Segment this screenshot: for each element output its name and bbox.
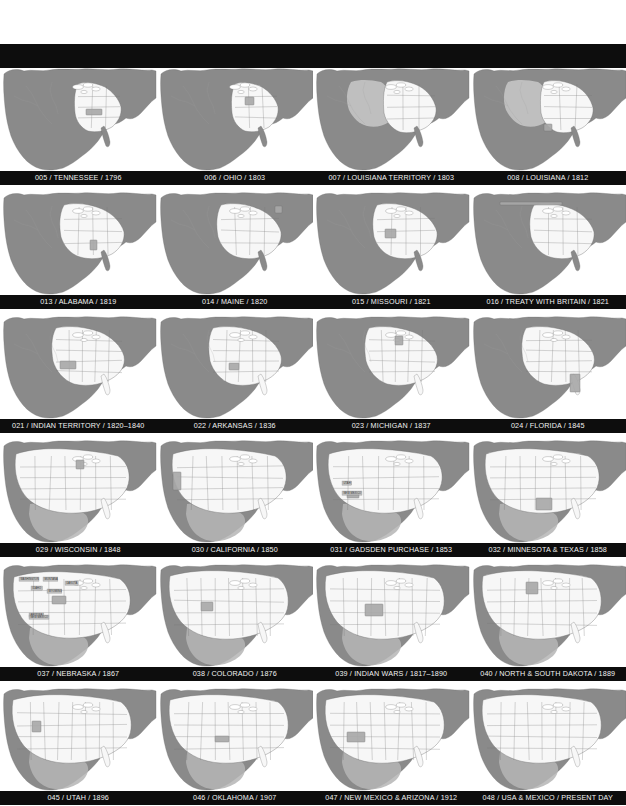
map-caption-030: 030 / CALIFORNIA / 1850 [157,543,314,557]
highlight-region [544,124,552,131]
map-tile-005[interactable] [0,68,157,171]
map-tile-strip [0,68,626,171]
map-caption-031: 031 / GADSDEN PURCHASE / 1853 [313,543,470,557]
map-svg [157,68,314,171]
map-tile-029[interactable] [0,440,157,543]
highlight-region [90,240,97,250]
map-caption-023: 023 / MICHIGAN / 1837 [313,419,470,433]
highlight-region [536,498,552,510]
caption-bar-row-1: 005 / TENNESSEE / 1796006 / OHIO / 18030… [0,171,626,185]
highlight-region [245,97,254,105]
map-caption-032: 032 / MINNESOTA & TEXAS / 1858 [470,543,626,557]
map-tile-014[interactable] [157,192,314,295]
highlight-region [52,596,66,604]
map-tile-037[interactable]: WASHINGTONMONTANADAKOTAIDAHOWYOMINGARIZO… [0,564,157,667]
map-svg [313,564,470,667]
highlight-region [215,736,229,742]
map-tile-015[interactable] [313,192,470,295]
map-caption-048: 048 / USA & MEXICO / PRESENT DAY [470,791,626,805]
map-tile-030[interactable] [157,440,314,543]
map-tile-016[interactable] [470,192,626,295]
map-tile-032[interactable] [470,440,626,543]
map-caption-016: 016 / TREATY WITH BRITAIN / 1821 [470,295,626,309]
map-tile-047[interactable] [313,688,470,791]
map-svg [470,564,626,667]
territory-label: WASHINGTON [20,577,39,581]
map-tile-023[interactable] [313,316,470,419]
map-tile-021[interactable] [0,316,157,419]
map-tile-strip: UTAHNEW MEXICO [0,440,626,543]
highlight-region [570,374,580,392]
map-svg: WASHINGTONMONTANADAKOTAIDAHOWYOMINGARIZO… [0,564,157,667]
map-svg [470,688,626,791]
map-caption-015: 015 / MISSOURI / 1821 [313,295,470,309]
map-svg [0,192,157,295]
map-tile-strip [0,316,626,419]
map-tile-strip [0,688,626,791]
map-tile-024[interactable] [470,316,626,419]
territory-label: UTAH [343,481,350,485]
map-caption-046: 046 / OKLAHOMA / 1907 [157,791,314,805]
highlight-region [500,202,562,205]
map-row-5: WASHINGTONMONTANADAKOTAIDAHOWYOMINGARIZO… [0,564,626,688]
territory-label: DAKOTA [66,581,77,585]
map-caption-008: 008 / LOUISIANA / 1812 [470,171,626,185]
map-svg [157,316,314,419]
highlight-region [76,460,84,469]
map-svg [313,316,470,419]
caption-bar-row-6: 045 / UTAH / 1896046 / OKLAHOMA / 190704… [0,791,626,805]
map-tile-048[interactable] [470,688,626,791]
map-caption-022: 022 / ARKANSAS / 1836 [157,419,314,433]
map-svg [0,316,157,419]
map-tile-045[interactable] [0,688,157,791]
map-tile-006[interactable] [157,68,314,171]
territory-label: NEW MEXICO [343,491,361,495]
highlight-region [229,363,239,370]
map-svg [0,688,157,791]
map-svg [470,192,626,295]
map-svg [0,68,157,171]
map-caption-040: 040 / NORTH & SOUTH DAKOTA / 1889 [470,667,626,681]
map-svg [157,440,314,543]
row-spacer [0,185,626,192]
map-row-6: 045 / UTAH / 1896046 / OKLAHOMA / 190704… [0,688,626,806]
map-tile-038[interactable] [157,564,314,667]
map-tile-039[interactable] [313,564,470,667]
highlight-region [32,721,41,732]
map-tile-040[interactable] [470,564,626,667]
map-row-4: UTAHNEW MEXICO 029 / WISCONSIN / 1848030… [0,440,626,564]
map-svg [470,316,626,419]
row-spacer [0,681,626,688]
map-tile-031[interactable]: UTAHNEW MEXICO [313,440,470,543]
map-grid: 005 / TENNESSEE / 1796006 / OHIO / 18030… [0,68,626,806]
highlight-region [347,732,365,742]
map-caption-029: 029 / WISCONSIN / 1848 [0,543,157,557]
map-tile-008[interactable] [470,68,626,171]
map-row-1: 005 / TENNESSEE / 1796006 / OHIO / 18030… [0,68,626,192]
map-caption-007: 007 / LOUISIANA TERRITORY / 1803 [313,171,470,185]
map-svg [470,68,626,171]
map-caption-005: 005 / TENNESSEE / 1796 [0,171,157,185]
highlight-region [201,602,213,611]
map-svg [313,688,470,791]
caption-bar-row-3: 021 / INDIAN TERRITORY / 1820–1840022 / … [0,419,626,433]
map-svg [470,440,626,543]
map-caption-013: 013 / ALABAMA / 1819 [0,295,157,309]
map-tile-013[interactable] [0,192,157,295]
highlight-region [365,604,383,616]
header-bar [0,44,626,68]
territory-label: MONTANA [44,577,58,581]
map-caption-047: 047 / NEW MEXICO & ARIZONA / 1912 [313,791,470,805]
highlight-region [385,229,396,238]
map-tile-007[interactable] [313,68,470,171]
highlight-region [275,206,282,213]
map-caption-038: 038 / COLORADO / 1876 [157,667,314,681]
map-row-3: 021 / INDIAN TERRITORY / 1820–1840022 / … [0,316,626,440]
map-svg [157,688,314,791]
map-tile-022[interactable] [157,316,314,419]
map-tile-046[interactable] [157,688,314,791]
map-svg [313,192,470,295]
map-tile-strip: WASHINGTONMONTANADAKOTAIDAHOWYOMINGARIZO… [0,564,626,667]
highlight-region [173,472,181,490]
territory-label: IDAHO [32,586,41,590]
